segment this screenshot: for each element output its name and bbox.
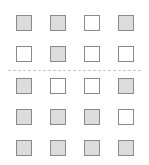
grid-cell-r4-c4[interactable]: [118, 109, 134, 125]
grid-cell-r2-c3[interactable]: [84, 46, 100, 62]
grid-cell-r3-c2[interactable]: [50, 78, 66, 94]
grid-cell-r5-c2[interactable]: [50, 140, 66, 156]
grid-cell-r4-c3[interactable]: [84, 109, 100, 125]
grid-cell-r5-c3[interactable]: [84, 140, 100, 156]
grid-cell-r3-c3[interactable]: [84, 78, 100, 94]
grid-cell-r1-c1[interactable]: [16, 15, 32, 31]
grid-cell-r5-c4[interactable]: [118, 140, 134, 156]
grid-cell-r1-c3[interactable]: [84, 15, 100, 31]
grid-cell-r3-c4[interactable]: [118, 78, 134, 94]
grid-cell-r2-c1[interactable]: [16, 46, 32, 62]
grid-cell-r4-c1[interactable]: [16, 109, 32, 125]
grid-cell-r1-c2[interactable]: [50, 15, 66, 31]
grid-cell-r1-c4[interactable]: [118, 15, 134, 31]
grid-cell-r2-c4[interactable]: [118, 46, 134, 62]
grid-cell-r5-c1[interactable]: [16, 140, 32, 156]
grid-cell-r4-c2[interactable]: [50, 109, 66, 125]
grid-cell-r3-c1[interactable]: [16, 78, 32, 94]
grid-cell-r2-c2[interactable]: [50, 46, 66, 62]
row-divider: [8, 70, 141, 71]
